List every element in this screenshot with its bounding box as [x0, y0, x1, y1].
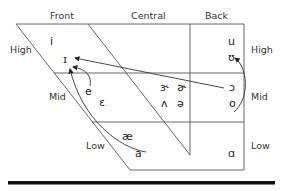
arrow-a-to-small-i [70, 69, 146, 152]
row-mid-left: Mid [49, 91, 66, 102]
vowel-open-o: ɔ [229, 81, 235, 94]
vowel-schwa: ə [177, 97, 184, 110]
vowel-small-i: ɪ [63, 53, 67, 66]
row-low-left: Low [86, 140, 105, 151]
row-high-left: High [10, 44, 32, 55]
vowel-u: u [228, 35, 235, 48]
vowel-i: i [50, 35, 53, 48]
vowel-r-schwa: ɝ [160, 81, 169, 94]
vowel-wedge: ʌ [161, 97, 168, 110]
column-central: Central [131, 10, 166, 21]
column-back: Back [205, 10, 229, 21]
vowel-chart: Front Central Back High Mid Low High Mid… [0, 0, 281, 191]
left-diagonal [16, 24, 130, 170]
vowel-script-a: ɑ [228, 147, 235, 160]
row-low-right: Low [251, 140, 270, 151]
column-front: Front [50, 10, 74, 21]
vowel-epsilon: ɛ [99, 96, 105, 109]
vowel-upsilon: ʊ [228, 51, 235, 64]
row-high-right: High [251, 44, 273, 55]
vowel-e: e [85, 85, 92, 98]
row-mid-right: Mid [251, 91, 268, 102]
bottom-rule [8, 181, 275, 185]
vowel-a: a [135, 147, 142, 160]
vowel-schwa-hook: ɚ [177, 81, 186, 94]
arrow-e-to-small-i [73, 67, 90, 86]
vowel-o: o [229, 97, 236, 110]
vowel-ae: æ [122, 130, 133, 143]
